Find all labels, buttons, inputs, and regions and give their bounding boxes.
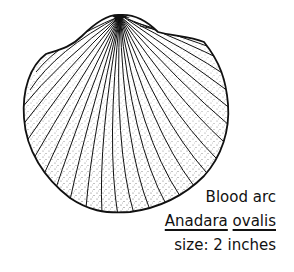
species: ovalis — [233, 212, 276, 230]
genus: Anadara — [165, 212, 228, 230]
shell-illustration — [0, 0, 294, 272]
common-name: Blood arc — [206, 188, 276, 206]
size-label: size: 2 inches — [174, 236, 276, 254]
scientific-name: Anadara ovalis — [165, 212, 276, 230]
